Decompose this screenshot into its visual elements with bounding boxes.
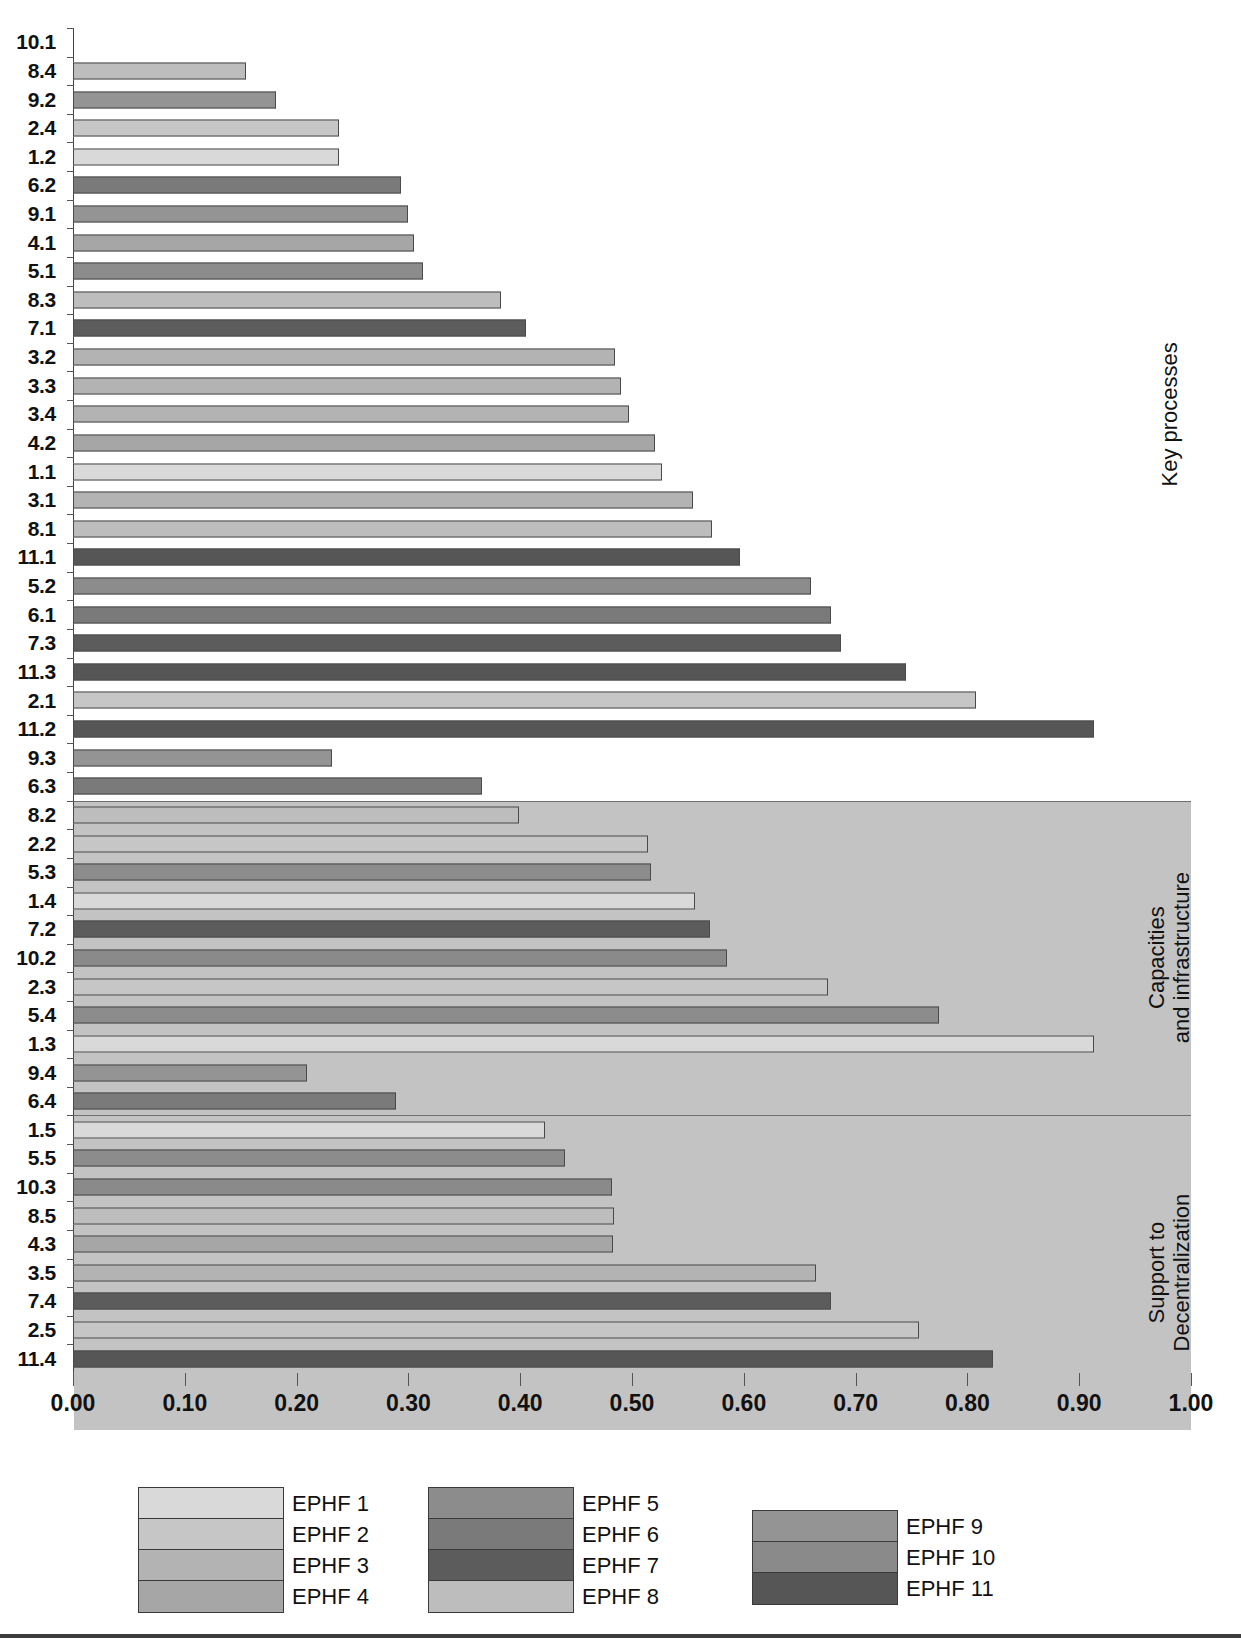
bar-chart-figure: 10.18.49.22.41.26.29.14.15.18.37.13.23.3… <box>0 0 1241 1644</box>
x-axis-tick-label: 0.00 <box>51 1390 96 1417</box>
x-axis-tick <box>856 1373 857 1386</box>
bar-row <box>73 57 1191 86</box>
y-axis-label: 8.4 <box>28 60 56 81</box>
legend-label-ephf-3: EPHF 3 <box>292 1550 369 1581</box>
y-axis-label: 1.5 <box>28 1119 56 1140</box>
bar-1.5 <box>73 1121 545 1138</box>
legend-swatch-ephf-11 <box>753 1573 897 1604</box>
legend-swatch-ephf-2 <box>139 1519 283 1550</box>
x-axis-tick <box>632 1373 633 1386</box>
bar-row <box>73 715 1191 744</box>
bar-row <box>73 686 1191 715</box>
bar-9.4 <box>73 1064 307 1081</box>
x-axis-tick <box>967 1373 968 1386</box>
bar-6.2 <box>73 177 401 194</box>
bar-1.4 <box>73 892 695 909</box>
legend-label-ephf-5: EPHF 5 <box>582 1488 659 1519</box>
y-axis-label: 3.5 <box>28 1262 56 1283</box>
legend: EPHF 1EPHF 2EPHF 3EPHF 4EPHF 5EPHF 6EPHF… <box>0 1470 1241 1620</box>
legend-label-ephf-10: EPHF 10 <box>906 1542 995 1573</box>
y-axis-label: 2.3 <box>28 976 56 997</box>
bar-8.1 <box>73 520 712 537</box>
y-axis-label: 11.1 <box>17 546 56 567</box>
bar-row <box>73 85 1191 114</box>
bar-row <box>73 743 1191 772</box>
bar-6.3 <box>73 778 482 795</box>
bar-8.3 <box>73 291 501 308</box>
bar-8.2 <box>73 806 519 823</box>
y-axis-label: 4.3 <box>28 1233 56 1254</box>
legend-swatch-stack <box>138 1487 284 1613</box>
x-axis-tick-label: 0.30 <box>386 1390 431 1417</box>
y-axis-label: 5.1 <box>28 260 56 281</box>
bar-2.3 <box>73 978 828 995</box>
x-axis-tick-label: 0.80 <box>945 1390 990 1417</box>
legend-swatch-ephf-6 <box>429 1519 573 1550</box>
legend-label-stack: EPHF 1EPHF 2EPHF 3EPHF 4 <box>292 1488 369 1612</box>
bar-1.3 <box>73 1035 1094 1052</box>
y-axis-label: 2.4 <box>28 117 56 138</box>
bar-6.1 <box>73 606 831 623</box>
bar-7.4 <box>73 1293 831 1310</box>
bar-row <box>73 171 1191 200</box>
legend-swatch-stack <box>428 1487 574 1613</box>
bar-row <box>73 314 1191 343</box>
x-axis-tick-label: 1.00 <box>1169 1390 1214 1417</box>
legend-label-ephf-9: EPHF 9 <box>906 1511 995 1542</box>
y-axis-label: 7.2 <box>28 918 56 939</box>
bar-8.4 <box>73 62 246 79</box>
bar-row <box>73 400 1191 429</box>
y-axis-label: 3.1 <box>28 489 56 510</box>
y-axis-label: 1.2 <box>28 146 56 167</box>
y-axis-label: 10.3 <box>16 1176 56 1197</box>
bar-2.5 <box>73 1322 919 1339</box>
bar-row <box>73 486 1191 515</box>
bar-row <box>73 658 1191 687</box>
legend-label-ephf-6: EPHF 6 <box>582 1519 659 1550</box>
y-axis-label: 4.1 <box>28 232 56 253</box>
bars-container <box>73 28 1191 1373</box>
bar-2.2 <box>73 835 648 852</box>
y-axis-label: 9.3 <box>28 747 56 768</box>
bar-11.1 <box>73 549 740 566</box>
bar-2.1 <box>73 692 976 709</box>
bar-4.2 <box>73 434 655 451</box>
bar-row <box>73 457 1191 486</box>
x-axis-tick <box>1079 1373 1080 1386</box>
bar-row <box>73 371 1191 400</box>
legend-swatch-ephf-7 <box>429 1550 573 1581</box>
bar-row <box>73 343 1191 372</box>
bar-9.3 <box>73 749 332 766</box>
bar-2.4 <box>73 120 339 137</box>
x-axis-tick <box>408 1373 409 1386</box>
legend-swatch-ephf-1 <box>139 1488 283 1519</box>
bar-5.3 <box>73 864 651 881</box>
bar-row <box>73 801 1191 830</box>
bar-row <box>73 1115 1191 1144</box>
bar-6.4 <box>73 1093 396 1110</box>
bar-row <box>73 1201 1191 1230</box>
x-axis-tick-label: 0.40 <box>498 1390 543 1417</box>
bar-7.2 <box>73 921 710 938</box>
bar-row <box>73 514 1191 543</box>
y-axis-label: 7.4 <box>28 1290 56 1311</box>
y-axis-label: 8.5 <box>28 1205 56 1226</box>
bar-11.4 <box>73 1350 993 1367</box>
y-axis-label: 8.1 <box>28 518 56 539</box>
x-axis-tick-label: 0.70 <box>833 1390 878 1417</box>
legend-label-ephf-2: EPHF 2 <box>292 1519 369 1550</box>
y-axis-label: 11.2 <box>17 718 56 739</box>
bar-row <box>73 28 1191 57</box>
bar-row <box>73 142 1191 171</box>
y-axis-label: 7.1 <box>28 317 56 338</box>
y-axis-label: 8.3 <box>28 289 56 310</box>
y-axis-label: 2.2 <box>28 833 56 854</box>
x-axis-tick-label: 0.60 <box>721 1390 766 1417</box>
y-axis-label: 11.3 <box>17 661 56 682</box>
legend-label-ephf-7: EPHF 7 <box>582 1550 659 1581</box>
bar-row <box>73 858 1191 887</box>
x-axis-tick <box>73 1373 74 1386</box>
y-axis-label: 3.2 <box>28 346 56 367</box>
x-axis-tick <box>185 1373 186 1386</box>
y-axis-label: 6.1 <box>28 604 56 625</box>
